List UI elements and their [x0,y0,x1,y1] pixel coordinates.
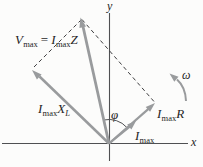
v-max-vector [83,27,109,144]
i-max-r-label: ImaxR [157,107,184,121]
phi-symbol: φ [111,107,118,122]
v-symbol: V [15,32,23,47]
i-max-label: Imax [135,129,154,143]
diagram-canvas [0,0,203,167]
v-subscript: max [23,39,38,49]
i-symbol: I [135,128,140,143]
v-max-arrowhead [79,18,86,29]
l-subscript: L [65,108,70,118]
equals-sign: = [38,32,52,47]
i-subscript: max [56,39,71,49]
z-symbol: Z [71,32,78,47]
i-subscript: max [140,135,155,145]
dashed-line-right [82,20,154,102]
y-axis-letter: y [107,0,113,13]
i-subscript: max [162,113,177,123]
phasor-diagram: y x Vmax=ImaxZ ImaxXL ImaxR Imax φ ω [0,0,203,167]
i-max-vector [109,126,130,143]
omega-symbol: ω [182,68,191,82]
x-axis-letter: x [191,135,197,149]
y-axis-label: y [107,0,113,13]
phi-label: φ [111,108,118,122]
i-subscript: max [43,108,58,118]
v-max-label: Vmax=ImaxZ [15,33,78,47]
i-symbol: I [38,101,43,116]
i-symbol: I [157,106,162,121]
omega-label: ω [182,69,191,82]
x-axis-label: x [191,136,197,149]
omega-rotation-curve [177,80,186,102]
i-max-xl-label: ImaxXL [38,102,70,116]
r-symbol: R [176,106,184,121]
